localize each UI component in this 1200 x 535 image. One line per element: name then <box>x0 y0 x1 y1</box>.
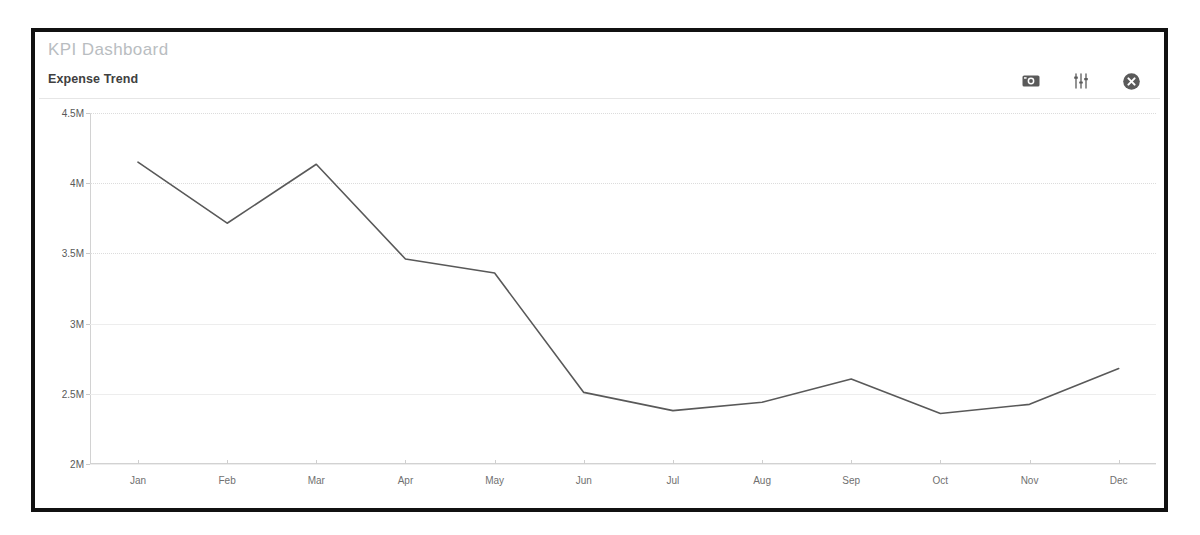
x-axis-tick-label: Feb <box>219 475 236 486</box>
gridline <box>90 464 1156 465</box>
panel-inner: KPI Dashboard Expense Trend <box>35 32 1164 508</box>
y-axis-tick-mark <box>86 464 90 465</box>
y-axis-tick-label: 3.5M <box>38 248 84 259</box>
y-axis-tick-label: 2M <box>38 459 84 470</box>
x-axis-tick-label: Nov <box>1021 475 1039 486</box>
snapshot-icon[interactable] <box>1020 70 1042 92</box>
x-axis-tick-label: Jun <box>576 475 592 486</box>
x-axis-tick-label: Jan <box>130 475 146 486</box>
chart-header-actions <box>1020 70 1142 92</box>
y-axis-tick-label: 4.5M <box>38 108 84 119</box>
x-axis-tick-label: Mar <box>308 475 325 486</box>
y-axis-tick-label: 3M <box>38 318 84 329</box>
x-axis-tick-label: Aug <box>753 475 771 486</box>
plot-area[interactable]: 4.5M4M3.5M3M2.5M2M JanFebMarAprMayJunJul… <box>90 113 1156 464</box>
sliders-icon[interactable] <box>1070 70 1092 92</box>
chart-object-header: Expense Trend <box>35 70 1164 96</box>
chart-title: Expense Trend <box>48 72 138 86</box>
y-axis-tick-label: 2.5M <box>38 388 84 399</box>
x-axis-tick-label: Oct <box>933 475 949 486</box>
page-title: KPI Dashboard <box>48 40 169 60</box>
x-axis-tick-label: May <box>485 475 504 486</box>
x-axis-tick-label: Dec <box>1110 475 1128 486</box>
x-axis-tick-label: Sep <box>842 475 860 486</box>
chart-body: 4.5M4M3.5M3M2.5M2M JanFebMarAprMayJunJul… <box>35 98 1164 508</box>
x-axis-tick-label: Jul <box>667 475 680 486</box>
series-line <box>138 162 1119 413</box>
expense-trend-line <box>90 113 1156 464</box>
x-axis-tick-label: Apr <box>398 475 414 486</box>
close-icon[interactable] <box>1120 70 1142 92</box>
y-axis-tick-label: 4M <box>38 178 84 189</box>
dashboard-panel: KPI Dashboard Expense Trend <box>31 28 1168 512</box>
